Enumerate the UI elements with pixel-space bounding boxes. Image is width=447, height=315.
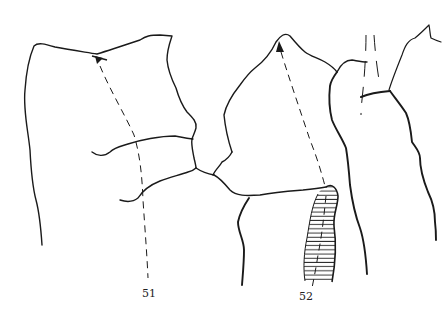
hatched-region (300, 182, 342, 286)
right-fragment-outline (361, 25, 441, 240)
fragment-51-outline (25, 35, 214, 245)
arrowhead-52-icon (276, 41, 284, 52)
parallel-dashes (361, 35, 380, 115)
figure-label-52: 52 (299, 291, 313, 302)
line-drawing (0, 0, 447, 315)
figure-label-51: 51 (142, 288, 156, 299)
fragment-51-axis (100, 66, 148, 278)
fragment-52-outline (213, 34, 367, 285)
arrowhead-51-icon (92, 56, 107, 64)
figure-canvas: 51 52 (0, 0, 447, 315)
